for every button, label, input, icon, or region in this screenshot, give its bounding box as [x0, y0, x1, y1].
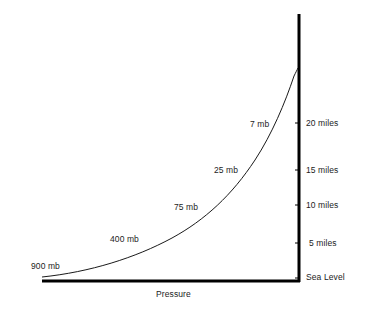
curve-label-25-mb: 25 mb	[214, 165, 238, 175]
curve-label-75-mb: 75 mb	[174, 202, 198, 212]
y-axis-label-sea-level: Sea Level	[306, 272, 345, 282]
curve-label-400-mb: 400 mb	[110, 234, 139, 244]
y-axis-label-5-miles: 5 miles	[309, 238, 337, 248]
curve-label-7-mb: 7 mb	[250, 119, 269, 129]
y-axis-label-15-miles: 15 miles	[306, 165, 338, 175]
y-axis-label-20-miles: 20 miles	[306, 118, 338, 128]
y-axis-label-10-miles: 10 miles	[306, 200, 338, 210]
pressure-curve	[42, 68, 298, 277]
x-axis-title: Pressure	[156, 289, 191, 299]
curve-label-900-mb: 900 mb	[31, 261, 60, 271]
pressure-altitude-chart: 20 miles 15 miles 10 miles 5 miles Sea L…	[0, 0, 382, 313]
